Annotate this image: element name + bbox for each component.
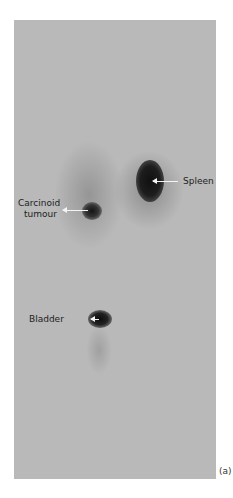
carcinoid-tumour-uptake <box>82 202 102 220</box>
tumour-label-line1: Carcinoid <box>18 198 60 208</box>
spleen-label: Spleen <box>183 176 214 186</box>
tumour-arrow-icon <box>63 210 88 211</box>
tumour-label-line2: tumour <box>24 209 57 219</box>
panel-label: (a) <box>219 466 232 476</box>
bladder-arrow-icon <box>91 319 99 320</box>
spleen-arrow-icon <box>153 181 178 182</box>
bladder-label: Bladder <box>29 314 64 324</box>
scintigraphy-scan <box>14 20 216 479</box>
bladder-tail-haze <box>86 325 112 375</box>
